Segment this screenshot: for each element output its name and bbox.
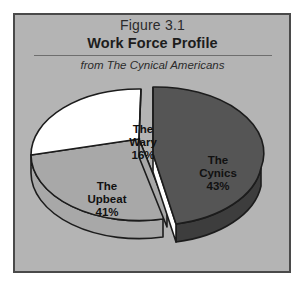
slice-label-wary: The Wary 16%	[115, 123, 171, 162]
figure-number: Figure 3.1	[0, 17, 305, 34]
slice-label-cynics-line2: Cynics	[183, 167, 253, 180]
slice-label-upbeat-line2: Upbeat	[69, 193, 145, 206]
slice-label-upbeat-percent: 41%	[69, 206, 145, 219]
figure-root: The Cynics 43% The Wary 16% The Upbeat 4…	[0, 0, 305, 291]
title-divider	[34, 55, 272, 56]
slice-label-wary-percent: 16%	[115, 149, 171, 162]
slice-label-wary-line1: The	[115, 123, 171, 136]
slice-label-wary-line2: Wary	[115, 136, 171, 149]
slice-label-cynics-line1: The	[183, 154, 253, 167]
figure-source: from The Cynical Americans	[0, 58, 305, 73]
slice-label-cynics: The Cynics 43%	[183, 154, 253, 193]
slice-label-upbeat: The Upbeat 41%	[69, 180, 145, 219]
figure-title-block: Figure 3.1 Work Force Profile from The C…	[0, 17, 305, 73]
slice-label-cynics-percent: 43%	[183, 180, 253, 193]
slice-label-upbeat-line1: The	[69, 180, 145, 193]
figure-title: Work Force Profile	[0, 34, 305, 52]
